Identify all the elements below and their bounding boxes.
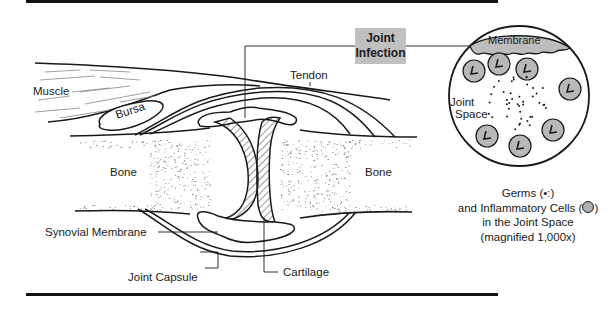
stipple-dot [178,171,179,172]
stipple-dot [283,145,285,146]
stipple-dot [349,142,350,143]
germ [489,101,491,103]
stipple-dot [130,147,131,148]
stipple-dot [175,203,176,204]
stipple-dot [198,149,199,150]
stipple-dot [293,199,294,200]
stipple-dot [329,195,331,196]
stipple-dot [178,149,179,150]
stipple-dot [160,210,161,211]
stipple-dot [346,157,347,158]
stipple-dot [337,144,338,145]
stipple-dot [282,166,283,167]
stipple-dot [301,154,302,155]
stipple-dot [143,145,144,146]
stipple-dot [159,144,160,145]
stipple-dot [354,210,355,211]
stipple-dot [282,209,283,210]
germ [529,116,531,118]
stipple-dot [313,206,314,207]
stipple-dot [314,167,315,168]
stipple-dot [150,154,151,155]
stipple-dot [165,171,166,172]
stipple-dot [184,189,185,190]
stipple-dot [165,162,167,163]
stipple-dot [327,190,328,191]
stipple-dot [180,196,181,197]
stipple-dot [369,210,371,211]
stipple-dot [136,142,137,143]
germ [526,83,528,85]
stipple-dot [157,174,158,175]
stipple-dot [305,154,306,155]
stipple-dot [156,171,157,172]
stipple-dot [345,178,346,179]
stipple-dot [193,181,195,182]
stipple-dot [155,161,156,162]
stipple-dot [290,193,291,194]
stipple-dot [155,205,156,206]
caption-line-2-end: ) [594,202,598,214]
stipple-dot [93,144,94,145]
germ [506,103,508,105]
stipple-dot [360,143,361,144]
stipple-dot [312,209,313,210]
stipple-dot [298,182,300,183]
stipple-dot [209,185,210,186]
stipple-dot [299,158,301,159]
stipple-dot [202,186,203,187]
stipple-dot [341,178,342,179]
stipple-dot [352,146,353,147]
inflammatory-cell [476,125,498,147]
stipple-dot [343,196,344,197]
stipple-dot [153,206,155,207]
stipple-dot [315,183,316,184]
stipple-dot [288,189,289,190]
stipple-dot [141,142,142,143]
stipple-dot [150,174,151,175]
stipple-dot [340,142,341,143]
stipple-dot [115,207,116,208]
stipple-dot [174,198,175,199]
stipple-dot [203,206,204,207]
stipple-dot [399,140,400,141]
stipple-dot [185,185,186,186]
stipple-dot [167,165,168,166]
stipple-dot [302,145,303,146]
stipple-dot [195,185,196,186]
stipple-dot [332,152,333,153]
stipple-dot [322,211,323,212]
stipple-dot [384,140,385,141]
stipple-dot [347,171,348,172]
stipple-dot [187,178,188,179]
stipple-dot [177,146,179,147]
stipple-dot [334,173,335,174]
stipple-dot [334,175,335,176]
stipple-dot [359,209,360,210]
stipple-dot [322,154,323,155]
stipple-dot [195,205,196,206]
stipple-dot [369,207,370,208]
stipple-dot [290,151,291,152]
stipple-dot [311,172,312,173]
joint-infection-diagram [0,0,616,311]
stipple-dot [281,164,282,165]
germ [508,102,510,104]
stipple-dot [355,143,356,144]
stipple-dot [164,192,165,193]
stipple-dot [184,153,185,154]
stipple-dot [155,165,156,166]
stipple-dot [367,210,368,211]
stipple-dot [205,182,206,183]
stipple-dot [297,206,298,207]
stipple-dot [310,207,311,208]
stipple-dot [164,161,165,162]
stipple-dot [298,188,299,189]
stipple-dot [168,142,169,143]
stipple-dot [299,166,300,167]
stipple-dot [151,209,152,210]
stipple-dot [286,185,287,186]
stipple-dot [346,161,347,162]
stipple-dot [193,185,194,186]
stipple-dot [314,181,315,182]
